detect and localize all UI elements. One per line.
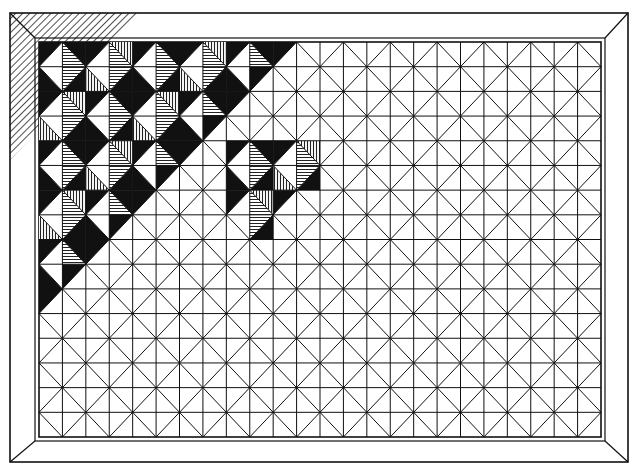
quilt-pattern-svg [0, 0, 641, 473]
quilt-drawing [0, 0, 641, 473]
